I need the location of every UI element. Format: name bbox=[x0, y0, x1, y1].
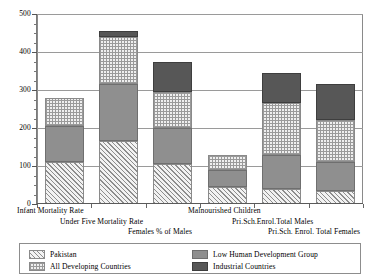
x-axis-label-1: Infant Mortality Rate bbox=[17, 206, 84, 216]
bar-segment bbox=[262, 155, 301, 189]
y-tick-label: 100 bbox=[19, 162, 31, 170]
x-axis-labels: Infant Mortality RateUnder Five Mortalit… bbox=[0, 206, 381, 240]
bar-3 bbox=[153, 62, 192, 205]
bar-segment bbox=[208, 170, 247, 187]
bar-segment bbox=[316, 84, 355, 120]
bar-5 bbox=[262, 73, 301, 204]
bar-segment bbox=[99, 37, 138, 83]
x-axis-label-2: Under Five Mortality Rate bbox=[60, 217, 143, 227]
bar-segment bbox=[45, 162, 84, 204]
x-axis-label-6: Pri.Sch. Enrol. Total Females bbox=[268, 227, 360, 237]
bar-segment bbox=[316, 191, 355, 204]
bar-segment bbox=[316, 120, 355, 162]
legend-swatch-icon bbox=[192, 250, 208, 259]
chart-legend: PakistanAll Developing CountriesLow Huma… bbox=[19, 243, 361, 274]
bar-6 bbox=[316, 84, 355, 204]
bar-segment bbox=[262, 73, 301, 103]
bar-segment bbox=[262, 189, 301, 204]
bar-segment bbox=[45, 126, 84, 162]
legend-label: All Developing Countries bbox=[50, 261, 131, 272]
stacked-bar-chart: 0100200300400500 Infant Mortality RateUn… bbox=[0, 0, 381, 280]
legend-swatch-icon bbox=[192, 262, 208, 271]
bar-2 bbox=[99, 31, 138, 204]
y-tick-label: 200 bbox=[19, 124, 31, 132]
bar-segment bbox=[262, 103, 301, 154]
bar-segment bbox=[208, 187, 247, 204]
bar-4 bbox=[208, 155, 247, 204]
bar-segment bbox=[208, 155, 247, 169]
bar-segment bbox=[153, 164, 192, 204]
legend-label: Industrial Countries bbox=[213, 261, 276, 272]
bar-segment bbox=[99, 141, 138, 204]
legend-swatch-icon bbox=[29, 262, 45, 271]
bar-segment bbox=[316, 162, 355, 191]
legend-label: Low Human Development Group bbox=[213, 249, 318, 260]
x-axis-label-5: Pri.Sch.Enrol.Total Males bbox=[232, 217, 313, 227]
x-axis-label-3: Females % of Males bbox=[128, 227, 192, 237]
bar-segment bbox=[153, 92, 192, 128]
bar-segment bbox=[99, 84, 138, 142]
x-axis-label-4: Malnourished Children bbox=[188, 206, 261, 216]
y-axis: 0100200300400500 bbox=[0, 14, 37, 204]
bar-segment bbox=[153, 128, 192, 164]
bar-segment bbox=[153, 62, 192, 92]
bar-segment bbox=[45, 98, 84, 127]
bar-series-group bbox=[37, 14, 363, 204]
plot-area bbox=[37, 14, 363, 204]
legend-label: Pakistan bbox=[50, 249, 77, 260]
legend-swatch-icon bbox=[29, 250, 45, 259]
bar-1 bbox=[45, 98, 84, 204]
y-tick-label: 500 bbox=[19, 10, 31, 18]
y-tick-label: 400 bbox=[19, 48, 31, 56]
y-tick-label: 300 bbox=[19, 86, 31, 94]
bar-segment bbox=[99, 31, 138, 37]
